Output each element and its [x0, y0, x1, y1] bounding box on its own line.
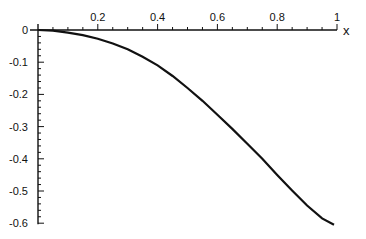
- data-curve: [38, 30, 334, 225]
- x-tick-label: 0.4: [150, 11, 165, 23]
- x-tick-label: 0.6: [210, 11, 225, 23]
- x-tick-label: 0.2: [90, 11, 105, 23]
- y-tick-label: -0.1: [9, 56, 28, 68]
- x-axis-label: x: [343, 23, 350, 38]
- y-tick-label: -0.4: [9, 153, 28, 165]
- y-tick-label: -0.6: [9, 217, 28, 229]
- x-tick-label: 0.8: [270, 11, 285, 23]
- y-tick-label: 0: [22, 24, 28, 36]
- y-tick-label: -0.5: [9, 185, 28, 197]
- x-tick-label: 1: [334, 11, 340, 23]
- line-chart: 0.20.40.60.81x0-0.1-0.2-0.3-0.4-0.5-0.6: [0, 0, 366, 239]
- y-tick-label: -0.3: [9, 121, 28, 133]
- y-tick-label: -0.2: [9, 88, 28, 100]
